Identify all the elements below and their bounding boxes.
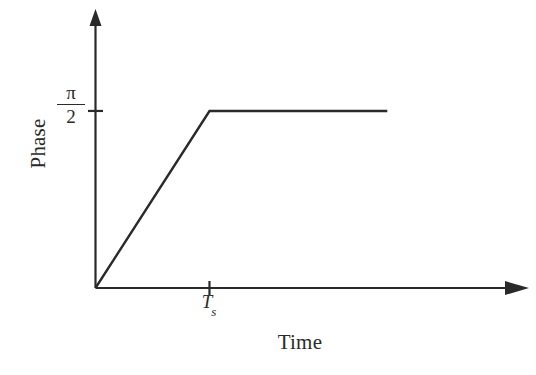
y-axis-label: Phase bbox=[28, 106, 49, 182]
x-axis-label: Time bbox=[240, 332, 360, 353]
x-tick-subscript: s bbox=[211, 304, 216, 319]
fraction-denominator: 2 bbox=[56, 107, 86, 127]
x-axis-arrowhead bbox=[505, 281, 529, 295]
chart-canvas bbox=[0, 0, 536, 375]
fraction-numerator: π bbox=[56, 83, 86, 103]
x-tick-label-ts: Ts bbox=[189, 292, 229, 315]
phase-curve bbox=[96, 111, 388, 288]
y-axis-arrowhead bbox=[90, 9, 102, 26]
phase-vs-time-figure: Phase π 2 Ts Time bbox=[0, 0, 536, 375]
y-tick-label-pi-over-2: π 2 bbox=[56, 83, 86, 127]
